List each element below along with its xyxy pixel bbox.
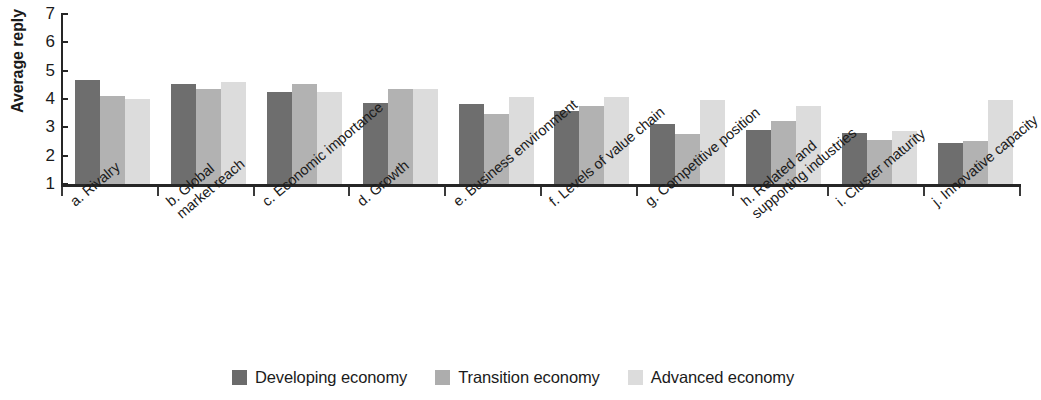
bar xyxy=(171,84,196,185)
x-separator xyxy=(923,187,925,196)
x-separator xyxy=(253,187,255,196)
x-separator xyxy=(61,187,63,196)
legend-swatch-icon xyxy=(628,370,643,385)
chart-legend: Developing economyTransition economyAdva… xyxy=(0,368,1026,387)
x-separator xyxy=(732,187,734,196)
x-separator xyxy=(444,187,446,196)
legend-swatch-icon xyxy=(435,370,450,385)
bar xyxy=(413,89,438,185)
y-axis-title: Average reply xyxy=(9,0,27,141)
x-separator xyxy=(636,187,638,196)
legend-item[interactable]: Transition economy xyxy=(435,368,600,387)
y-tick-label-7: 7 xyxy=(33,5,55,22)
y-tick-label-1: 1 xyxy=(33,175,55,192)
y-tick-label-6: 6 xyxy=(33,33,55,50)
x-separator xyxy=(827,187,829,196)
y-tick-label-3: 3 xyxy=(33,118,55,135)
x-separator xyxy=(348,187,350,196)
y-tick-label-2: 2 xyxy=(33,147,55,164)
legend-item[interactable]: Developing economy xyxy=(232,368,407,387)
y-tick-label-4: 4 xyxy=(33,90,55,107)
legend-label: Developing economy xyxy=(255,368,407,387)
legend-label: Transition economy xyxy=(458,368,600,387)
x-separator xyxy=(1019,187,1021,196)
legend-swatch-icon xyxy=(232,370,247,385)
legend-label: Advanced economy xyxy=(651,368,794,387)
x-separator xyxy=(540,187,542,196)
y-tick-label-5: 5 xyxy=(33,62,55,79)
bar xyxy=(75,80,100,185)
legend-item[interactable]: Advanced economy xyxy=(628,368,794,387)
bar xyxy=(125,99,150,185)
x-separator xyxy=(157,187,159,196)
